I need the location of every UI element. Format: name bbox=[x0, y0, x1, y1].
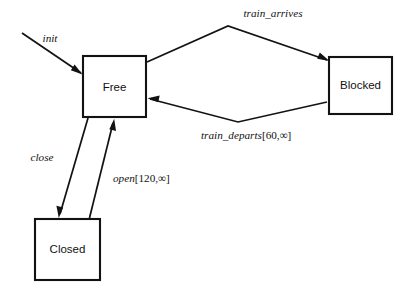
state-blocked[interactable]: Blocked bbox=[329, 57, 392, 114]
state-blocked-label: Blocked bbox=[340, 79, 381, 91]
transition-train-departs-label: train_departs[60,∞] bbox=[201, 129, 291, 141]
transition-init-arrowhead bbox=[71, 65, 83, 75]
transition-train-departs-arrowhead bbox=[148, 96, 160, 103]
transition-open bbox=[88, 119, 116, 224]
state-free-label: Free bbox=[103, 81, 127, 93]
transition-close-line bbox=[60, 118, 88, 214]
transition-open-name: open bbox=[113, 172, 135, 184]
transition-close-label: close bbox=[31, 151, 54, 163]
transition-train-arrives-line bbox=[147, 26, 327, 62]
transition-train-departs-line bbox=[150, 99, 327, 122]
transition-open-line bbox=[88, 123, 113, 224]
transition-open-arrowhead bbox=[109, 119, 116, 131]
diagram-canvas-svg: Free Blocked Closed init train_arrives t… bbox=[0, 0, 408, 293]
state-machine-diagram: Free Blocked Closed init train_arrives t… bbox=[0, 0, 408, 293]
transition-train-arrives-arrowhead bbox=[317, 52, 329, 61]
transition-open-guard: [120,∞] bbox=[135, 172, 170, 184]
transition-init-label: init bbox=[43, 32, 59, 44]
transition-train-departs-name: train_departs bbox=[201, 129, 263, 141]
state-free[interactable]: Free bbox=[83, 56, 146, 117]
transition-train-departs bbox=[148, 96, 328, 122]
state-closed[interactable]: Closed bbox=[35, 219, 100, 280]
transition-train-arrives-label: train_arrives bbox=[243, 7, 303, 19]
transition-train-departs-guard: [60,∞] bbox=[262, 129, 291, 141]
transition-close-arrowhead bbox=[56, 206, 63, 218]
state-closed-label: Closed bbox=[50, 243, 86, 255]
transition-open-label: open[120,∞] bbox=[113, 172, 170, 184]
transition-close bbox=[56, 118, 88, 218]
transition-train-arrives bbox=[147, 26, 330, 62]
